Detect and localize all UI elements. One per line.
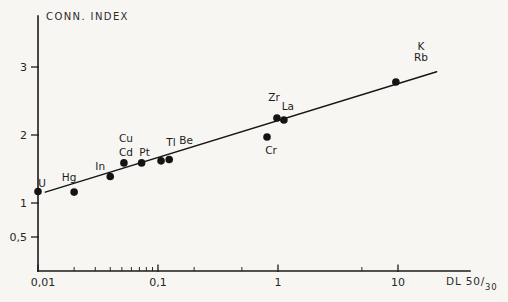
point-label-in: In [95,160,105,172]
point-label-u: U [38,177,46,189]
data-point-in [106,173,114,181]
y-axis-tick-label: 1 [20,197,27,210]
axes [38,16,470,271]
data-point-la [280,116,288,124]
x-axis-tick-label: 1 [275,276,282,289]
y-axis-tick-label: 2 [20,129,27,142]
point-label-cu: Cu [119,132,133,144]
x-axis-tick-label: 0,1 [149,276,167,289]
x-axis-title-main: DL 50/ [446,275,485,287]
x-axis-title-subscript: 30 [485,282,497,292]
point-label-rb: Rb [414,51,428,63]
data-point-cu-cd [120,159,128,167]
conn-index-vs-dl50-chart: 3210,50,010,1110 UHgInCuCdPtTlBeCrZrLaKR… [0,0,508,302]
y-axis-tick-label: 0,5 [10,231,28,244]
data-point-cr [263,133,271,141]
point-label-cd: Cd [119,146,133,158]
y-axis-title: CONN. INDEX [46,11,129,22]
data-point-be [165,156,173,164]
trend-line-group [45,72,436,192]
data-point-hg [70,188,78,196]
scatter-figure: 3210,50,010,1110 UHgInCuCdPtTlBeCrZrLaKR… [0,0,508,302]
point-label-hg: Hg [62,171,77,183]
data-point-pt [138,159,146,167]
point-label-pt: Pt [139,146,149,158]
data-point-k-rb [392,78,400,86]
x-axis-title: DL 50/30 [446,275,497,292]
y-axis-tick-label: 3 [20,61,27,74]
point-label-tl: Tl [165,136,175,148]
x-axis-tick-label: 0,01 [31,276,56,289]
point-label-be: Be [179,134,193,146]
trend-line [45,72,436,192]
data-point-tl [157,157,165,165]
point-label-zr: Zr [268,91,280,103]
data-point-zr [273,114,281,122]
point-labels: UHgInCuCdPtTlBeCrZrLaKRb [38,40,428,189]
point-label-la: La [282,100,294,112]
x-axis-tick-label: 10 [391,276,405,289]
point-label-cr: Cr [265,144,277,156]
